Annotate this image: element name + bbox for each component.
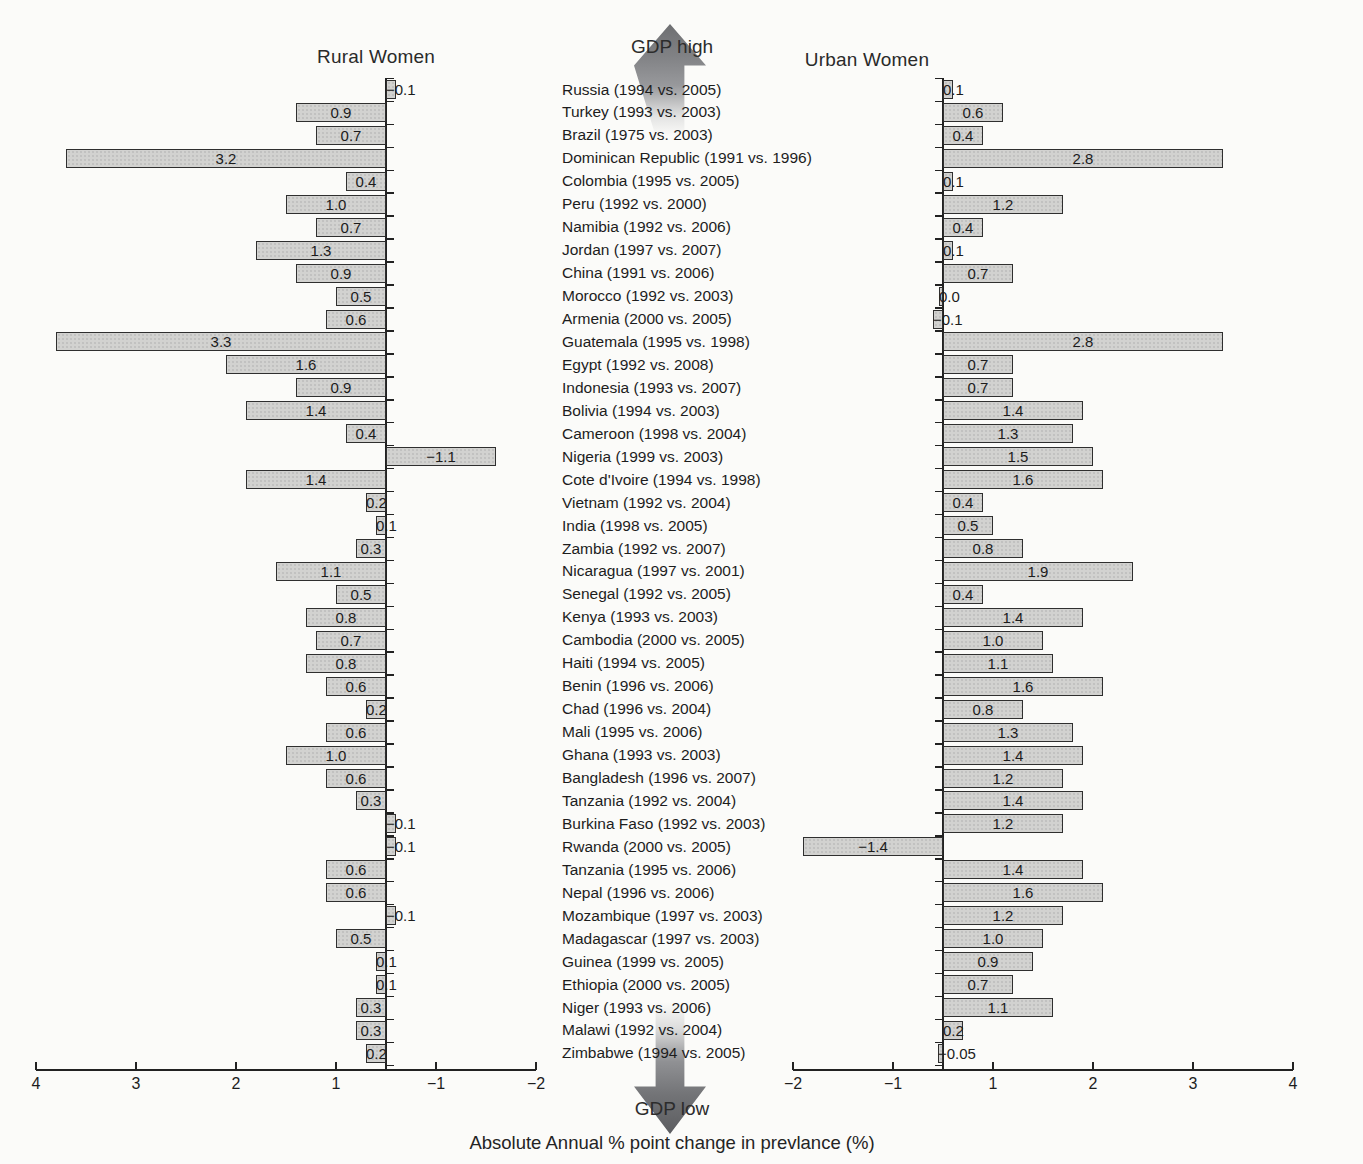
urban-bar-value: 1.1 (943, 998, 1053, 1017)
rural-bar-value: 0.4 (346, 424, 386, 443)
rural-bar-value: −0.1 (386, 814, 396, 833)
urban-bar-value: 1.2 (943, 906, 1063, 925)
rural-row-tick (386, 743, 394, 745)
country-label: Turkey (1993 vs. 2003) (562, 102, 721, 122)
country-label: Russia (1994 vs. 2005) (562, 80, 721, 100)
rural-row-tick (386, 606, 394, 608)
rural-bar-value: 3.3 (56, 332, 386, 351)
urban-row-tick (935, 766, 943, 768)
country-label: Senegal (1992 vs. 2005) (562, 584, 731, 604)
urban-row-tick (935, 261, 943, 263)
rural-bar-value: 0.9 (296, 264, 386, 283)
rural-row-tick (386, 973, 394, 975)
rural-bar-value: 0.6 (326, 769, 386, 788)
rural-bar-value: 0.5 (336, 585, 386, 604)
country-label: Vietnam (1992 vs. 2004) (562, 493, 731, 513)
urban-row-tick (935, 238, 943, 240)
rural-axis-tick (385, 1062, 387, 1070)
rural-row-tick (386, 927, 394, 929)
urban-row-tick (935, 124, 943, 126)
country-label: Chad (1996 vs. 2004) (562, 699, 711, 719)
urban-bar-value: 1.2 (943, 814, 1063, 833)
rural-bar-value: 0.3 (356, 539, 386, 558)
urban-row-tick (935, 422, 943, 424)
rural-row-tick (386, 514, 394, 516)
urban-bar-value: 1.4 (943, 608, 1083, 627)
urban-row-tick (935, 674, 943, 676)
rural-axis-tick-label: 2 (214, 1075, 258, 1093)
rural-bar-value: 0.6 (326, 883, 386, 902)
urban-bar-value: 0.4 (943, 126, 983, 145)
urban-bar-value: 1.6 (943, 883, 1103, 902)
rural-bar-value: 1.1 (276, 562, 386, 581)
rural-bar-value: −1.1 (386, 447, 496, 466)
urban-axis-tick (992, 1062, 994, 1070)
urban-axis-tick (1092, 1062, 1094, 1070)
urban-row-tick (935, 720, 943, 722)
rural-bar-value: 1.6 (226, 355, 386, 374)
rural-row-tick (386, 858, 394, 860)
rural-row-tick (386, 284, 394, 286)
urban-axis-line (793, 1069, 1293, 1071)
country-label: Cambodia (2000 vs. 2005) (562, 630, 745, 650)
country-label: China (1991 vs. 2006) (562, 263, 715, 283)
urban-bar-value: 0.8 (943, 700, 1023, 719)
rural-bar-value: 1.0 (286, 746, 386, 765)
urban-bar-value: 1.1 (943, 654, 1053, 673)
rural-row-tick (386, 560, 394, 562)
rural-bar-value: 0.1 (376, 975, 386, 994)
urban-bar-value: 1.4 (943, 401, 1083, 420)
rural-bar-value: 0.1 (376, 952, 386, 971)
urban-bar-value: 1.0 (943, 631, 1043, 650)
urban-row-tick (935, 606, 943, 608)
urban-bar-value: 1.4 (943, 860, 1083, 879)
rural-axis-tick-label: 1 (314, 1075, 358, 1093)
rural-bar-value: 0.2 (366, 700, 386, 719)
urban-row-tick (935, 445, 943, 447)
urban-bar-value: 0.2 (943, 1021, 963, 1040)
rural-bar-value: 1.4 (246, 401, 386, 420)
urban-row-tick (935, 514, 943, 516)
rural-row-tick (386, 491, 394, 493)
rural-bar-value: 1.3 (256, 241, 386, 260)
urban-row-tick (935, 583, 943, 585)
country-label: Burkina Faso (1992 vs. 2003) (562, 814, 765, 834)
rural-row-tick (386, 376, 394, 378)
rural-axis-tick (135, 1062, 137, 1070)
urban-row-tick (935, 904, 943, 906)
rural-row-tick (386, 766, 394, 768)
country-label: Cote d'Ivoire (1994 vs. 1998) (562, 470, 761, 490)
x-axis-title: Absolute Annual % point change in prevla… (352, 1132, 992, 1154)
urban-bar-value: 1.2 (943, 769, 1063, 788)
country-label: Indonesia (1993 vs. 2007) (562, 378, 741, 398)
urban-row-tick (935, 330, 943, 332)
rural-row-tick (386, 78, 394, 80)
urban-bar-value: 1.3 (943, 723, 1073, 742)
rural-row-tick (386, 1042, 394, 1044)
rural-axis-tick-label: 4 (14, 1075, 58, 1093)
rural-row-tick (386, 812, 394, 814)
urban-row-tick (935, 835, 943, 837)
rural-row-tick (386, 261, 394, 263)
rural-axis-tick-label: −1 (414, 1075, 458, 1093)
urban-bar-value: 0.4 (943, 493, 983, 512)
urban-bar-value: 1.4 (943, 791, 1083, 810)
left-panel-title: Rural Women (266, 46, 486, 68)
urban-bar-value: 0.5 (943, 516, 993, 535)
urban-bar-value: 0.1 (943, 80, 953, 99)
urban-bar-value: 0.4 (943, 218, 983, 237)
rural-bar-value: 0.6 (326, 310, 386, 329)
country-label: Bolivia (1994 vs. 2003) (562, 401, 720, 421)
urban-row-tick (935, 812, 943, 814)
rural-bar-value: 0.9 (296, 103, 386, 122)
rural-bar-value: 0.9 (296, 378, 386, 397)
rural-row-tick (386, 789, 394, 791)
urban-axis-tick (892, 1062, 894, 1070)
rural-row-tick (386, 651, 394, 653)
rural-bar-value: 0.5 (336, 929, 386, 948)
country-label: Zambia (1992 vs. 2007) (562, 539, 726, 559)
urban-row-tick (935, 78, 943, 80)
urban-bar-value: −0.05 (938, 1044, 943, 1063)
urban-bar-value: 1.6 (943, 677, 1103, 696)
rural-row-tick (386, 124, 394, 126)
